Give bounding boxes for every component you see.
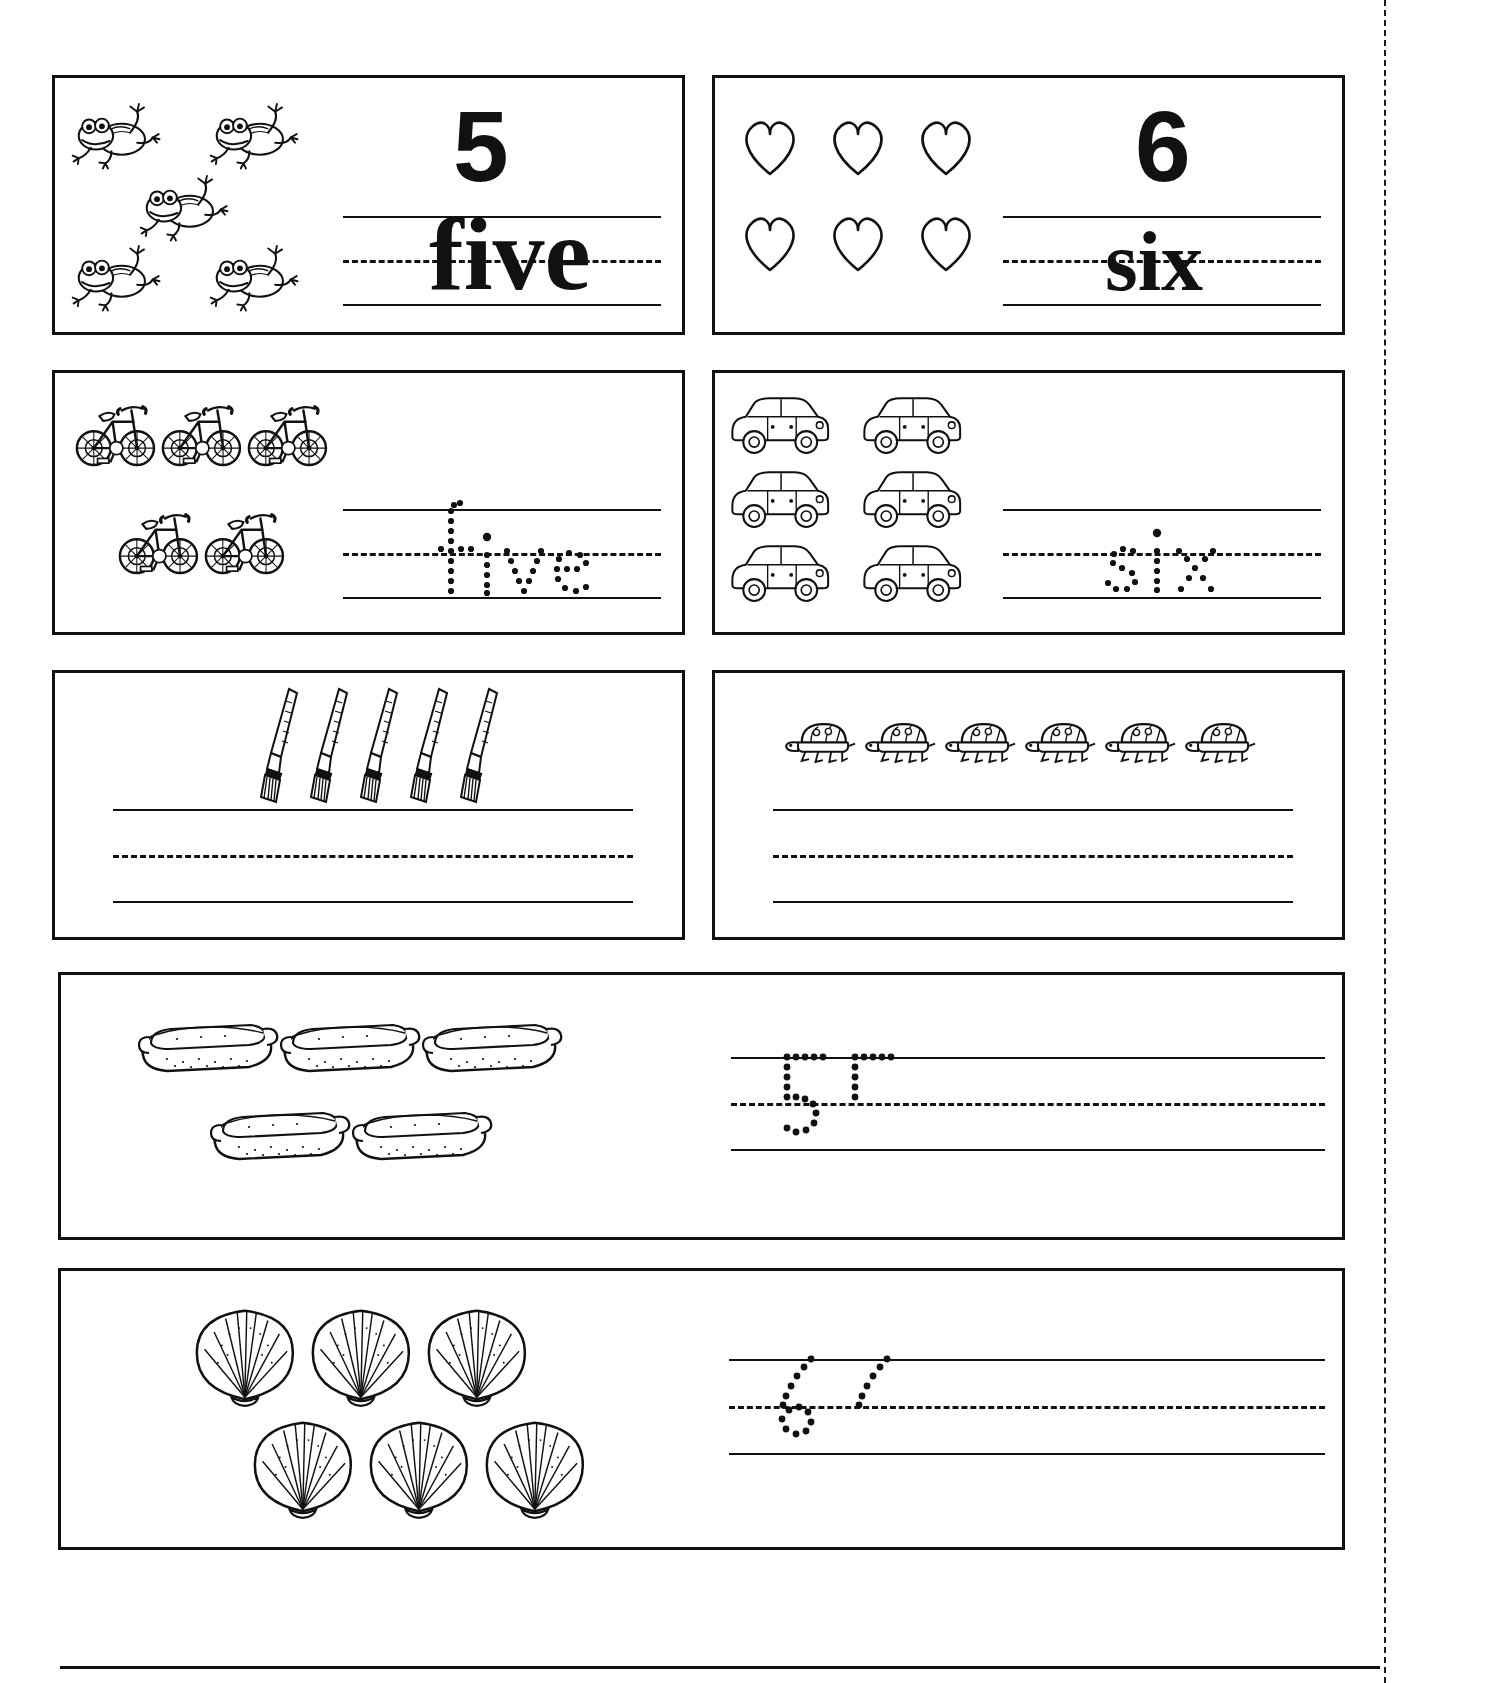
bicycle-icon-cluster xyxy=(73,401,353,616)
heart-picture-group xyxy=(735,116,1010,296)
dotted-numeral-six xyxy=(763,1357,963,1461)
hotdog-picture-group xyxy=(137,1021,587,1201)
writing-lines-six: six xyxy=(1003,216,1321,306)
perforation-line xyxy=(1384,0,1386,1683)
seashell-icon-cluster xyxy=(193,1307,613,1527)
exercise-box-shells-six xyxy=(58,1268,1345,1550)
exercise-box-bicycles-five xyxy=(52,370,685,635)
dotted-word-five xyxy=(425,497,625,605)
line-bottom xyxy=(773,901,1293,903)
line-top xyxy=(773,809,1293,811)
exercise-box-hotdogs-five xyxy=(58,972,1345,1240)
writing-lines-numeral-six xyxy=(729,1359,1325,1453)
turtle-icon-cluster xyxy=(783,709,1283,779)
paintbrush-icon-cluster xyxy=(251,687,541,807)
writing-lines-trace-five xyxy=(343,509,661,599)
writing-lines-trace-six xyxy=(1003,509,1321,599)
line-bottom xyxy=(113,901,633,903)
turtle-picture-group xyxy=(783,709,1283,779)
hotdog-icon-cluster xyxy=(137,1021,587,1201)
exercise-box-turtles-six xyxy=(712,670,1345,940)
footer-rule xyxy=(60,1666,1380,1669)
exercise-box-paintbrushes-five xyxy=(52,670,685,940)
writing-lines-numeral-five xyxy=(731,1057,1325,1149)
writing-lines-blank-five xyxy=(113,809,633,901)
line-middle xyxy=(773,855,1293,858)
worksheet-page: 5 five 6 xyxy=(0,0,1503,1683)
numeral-five-display: 5 xyxy=(453,96,509,196)
bicycle-picture-group xyxy=(73,401,353,616)
word-six: six xyxy=(1105,220,1203,304)
car-icon-cluster xyxy=(721,395,991,620)
seashell-picture-group xyxy=(193,1307,613,1527)
line-middle xyxy=(113,855,633,858)
word-five: five xyxy=(429,202,591,306)
dotted-numeral-five xyxy=(767,1055,957,1155)
writing-lines-five: five xyxy=(343,216,661,306)
exercise-box-frogs-five: 5 five xyxy=(52,75,685,335)
car-picture-group xyxy=(721,395,991,620)
heart-icon-cluster xyxy=(735,116,1010,296)
numeral-six-display: 6 xyxy=(1135,96,1191,196)
exercise-box-cars-six xyxy=(712,370,1345,635)
dotted-word-six xyxy=(1099,497,1269,605)
exercise-box-hearts-six: 6 six xyxy=(712,75,1345,335)
frog-icon-cluster xyxy=(67,96,357,316)
frog-picture-group xyxy=(67,96,357,316)
writing-lines-blank-six xyxy=(773,809,1293,901)
line-top xyxy=(113,809,633,811)
paintbrush-picture-group xyxy=(251,687,541,807)
